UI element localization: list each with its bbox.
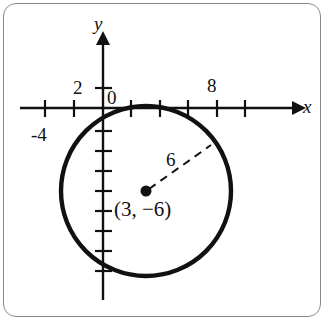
x-axis-label: x [303, 97, 311, 116]
center-point-marker [141, 186, 152, 197]
radius-dashed-line [149, 145, 211, 189]
y-axis-label: y [94, 14, 102, 33]
y-tick-label-2: 2 [73, 78, 83, 97]
x-tick-label-minus-4: -4 [31, 125, 47, 144]
coordinate-plane-graphic [0, 0, 328, 324]
x-tick-label-8: 8 [207, 76, 217, 95]
figure-canvas: y x 2 0 8 -4 6 (3, −6) [0, 0, 328, 324]
center-coordinates-label: (3, −6) [114, 199, 171, 220]
origin-label-0: 0 [107, 88, 117, 107]
radius-length-label: 6 [166, 150, 176, 169]
